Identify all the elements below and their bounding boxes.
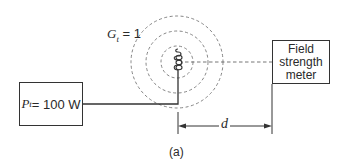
power-value: = 100 W [32, 97, 81, 112]
diagram-canvas: Gt = 1 Pt = 100 W Field strength meter d… [0, 0, 346, 167]
gain-symbol: G [107, 26, 116, 41]
feed-line [83, 70, 178, 104]
figure-caption: (a) [169, 145, 184, 159]
arrowhead-left-icon [178, 124, 186, 129]
arrowhead-right-icon [264, 124, 272, 129]
distance-label: d [219, 116, 230, 132]
antenna-coil-icon [174, 49, 182, 70]
gain-value: = 1 [119, 26, 141, 41]
meter-label-line-2: strength [279, 56, 322, 69]
antenna-gain-label: Gt = 1 [107, 26, 141, 44]
meter-label-line-1: Field [288, 43, 314, 56]
transmitter-box: Pt = 100 W [19, 82, 83, 126]
field-strength-meter-box: Field strength meter [272, 40, 330, 84]
meter-label-line-3: meter [286, 69, 317, 82]
power-symbol: P [21, 96, 29, 112]
